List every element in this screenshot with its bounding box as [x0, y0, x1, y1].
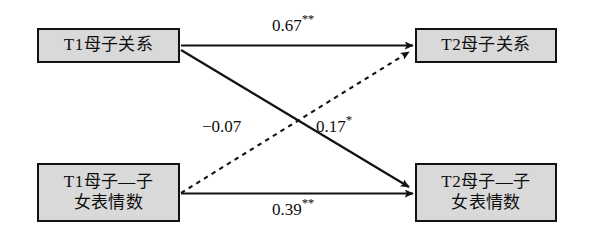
node-t2-mother-child-relation: T2母子关系 [415, 28, 557, 63]
node-t1-mother-child-expression-count: T1母子—子 女表情数 [37, 163, 180, 222]
path-coefficient-top: 0.67** [272, 16, 314, 36]
path-coefficient-cross-solid-value: 0.17 [316, 117, 346, 136]
node-t1-mother-child-relation: T1母子关系 [37, 28, 180, 63]
path-coefficient-cross-solid: 0.17* [316, 117, 352, 137]
path-coefficient-top-significance: ** [302, 11, 314, 26]
path-coefficient-top-value: 0.67 [272, 16, 302, 35]
path-coefficient-cross-dashed: −0.07 [202, 117, 241, 137]
path-coefficient-bottom: 0.39** [272, 200, 314, 220]
path-coefficient-cross-dashed-value: −0.07 [202, 117, 241, 136]
path-diagram: T1母子关系 T2母子关系 T1母子—子 女表情数 T2母子—子 女表情数 0.… [0, 0, 595, 243]
path-coefficient-cross-solid-significance: * [346, 112, 352, 127]
path-coefficient-bottom-significance: ** [302, 195, 314, 210]
path-coefficient-bottom-value: 0.39 [272, 200, 302, 219]
node-t2-mother-child-expression-count: T2母子—子 女表情数 [415, 163, 557, 222]
